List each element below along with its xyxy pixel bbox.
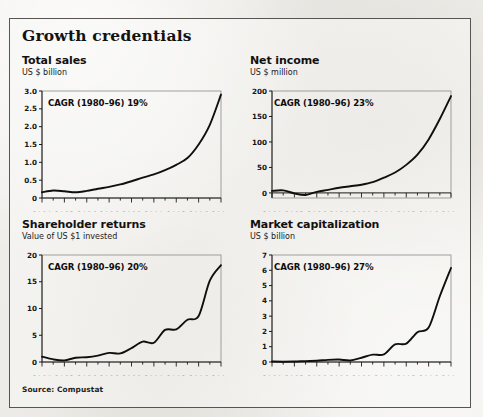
figure-title: Growth credentials [22,26,192,45]
x-tick-label: 1984 [77,374,97,376]
x-tick-label: 1992 [166,374,186,376]
y-tick-label: 1 [262,342,267,351]
plot-shareholder-returns: 0510152019801982198419861988199019921994… [14,250,226,376]
panel-shareholder-returns: Shareholder returns Value of US $1 inves… [22,219,146,242]
data-line [272,268,451,362]
source-note: Source: Compustat [22,385,103,394]
plot-net-income: 0501001502001980198219841986198819901992… [244,86,456,212]
panel-market-capitalization: Market capitalization US $ billion [250,219,379,242]
x-tick-label: 1992 [396,210,416,212]
data-line [42,265,221,360]
y-tick-label: 150 [252,112,267,121]
x-tick-label: 1986 [329,210,349,212]
x-tick-label: 1994 [189,210,209,212]
x-tick-label: 1986 [329,374,349,376]
y-tick-label: 5 [32,331,37,340]
y-tick-label: 200 [252,87,267,96]
plot-frame [272,255,451,362]
x-tick-label: 1982 [54,210,74,212]
y-tick-label: 6 [262,266,267,275]
y-tick-label: 3 [262,312,267,321]
x-tick-label: 1992 [396,374,416,376]
panel-subtitle: US $ million [250,68,319,78]
y-tick-label: 1.5 [24,140,37,149]
y-tick-label: 100 [252,138,267,147]
y-tick-label: 0.5 [24,176,37,185]
x-tick-label: 1996 [211,210,226,212]
y-tick-label: 0 [262,358,267,367]
plot-total-sales: 00.51.01.52.02.53.0198019821984198619881… [14,86,226,212]
panel-total-sales: Total sales US $ billion [22,55,87,78]
panel-subtitle: US $ billion [22,68,87,78]
plot-svg-shareholder-returns: 0510152019801982198419861988199019921994… [14,250,226,376]
plot-svg-total-sales: 00.51.01.52.02.53.0198019821984198619881… [14,86,226,212]
x-tick-label: 1990 [144,210,164,212]
y-tick-label: 20 [27,251,37,260]
y-tick-label: 5 [262,281,267,290]
y-tick-label: 2.5 [24,104,37,113]
data-line [42,95,221,193]
x-tick-label: 1996 [441,210,456,212]
y-tick-label: 0 [32,358,37,367]
plot-frame [42,255,221,362]
x-tick-label: 1982 [284,374,304,376]
x-tick-label: 1996 [211,374,226,376]
y-tick-label: 15 [27,277,37,286]
x-tick-label: 1986 [99,374,119,376]
x-tick-label: 1984 [307,210,327,212]
x-tick-label: 1992 [166,210,186,212]
y-tick-label: 2.0 [24,122,37,131]
x-tick-label: 1988 [121,374,141,376]
x-tick-label: 1994 [419,210,439,212]
x-tick-label: 1988 [351,374,371,376]
x-tick-label: 1982 [54,374,74,376]
x-tick-label: 1996 [441,374,456,376]
panel-title: Net income [250,55,319,67]
y-tick-label: 3.0 [24,87,37,96]
panel-title: Shareholder returns [22,219,146,231]
x-tick-label: 1980 [32,210,52,212]
x-tick-label: 1980 [262,374,282,376]
x-tick-label: 1990 [144,374,164,376]
panel-title: Total sales [22,55,87,67]
y-tick-label: 0 [262,189,267,198]
x-tick-label: 1988 [121,210,141,212]
x-tick-label: 1994 [419,374,439,376]
y-tick-label: 7 [262,251,267,260]
x-tick-label: 1994 [189,374,209,376]
x-tick-label: 1990 [374,210,394,212]
y-tick-label: 0 [32,194,37,203]
plot-svg-market-capitalization: 0123456719801982198419861988199019921994… [244,250,456,376]
panel-net-income: Net income US $ million [250,55,319,78]
plot-svg-net-income: 0501001502001980198219841986198819901992… [244,86,456,212]
panel-title: Market capitalization [250,219,379,231]
y-tick-label: 1.0 [24,158,37,167]
x-tick-label: 1980 [32,374,52,376]
x-tick-label: 1990 [374,374,394,376]
x-tick-label: 1980 [262,210,282,212]
x-tick-label: 1984 [77,210,97,212]
panel-subtitle: Value of US $1 invested [22,232,146,242]
panel-subtitle: US $ billion [250,232,379,242]
y-tick-label: 2 [262,327,267,336]
data-line [272,96,451,195]
plot-market-capitalization: 0123456719801982198419861988199019921994… [244,250,456,376]
x-tick-label: 1986 [99,210,119,212]
x-tick-label: 1984 [307,374,327,376]
x-tick-label: 1982 [284,210,304,212]
y-tick-label: 4 [262,296,267,305]
x-tick-label: 1988 [351,210,371,212]
y-tick-label: 10 [27,304,37,313]
y-tick-label: 50 [257,163,267,172]
